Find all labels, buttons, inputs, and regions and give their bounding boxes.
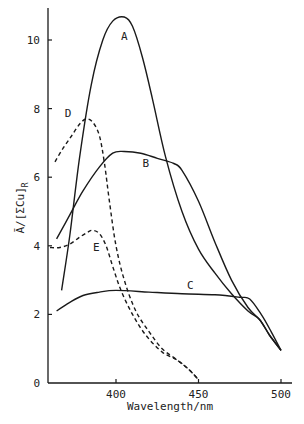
y-axis-title: Ā/[ΣCu]R: [14, 182, 30, 233]
y-tick-label: 6: [33, 171, 40, 184]
spectra-chart: 0246810 400450500 ABCDE Wavelength/nm Ā/…: [0, 0, 304, 424]
x-ticks: 400450500: [106, 379, 291, 401]
x-tick-label: 400: [106, 388, 126, 401]
curve-labels: ABCDE: [65, 30, 194, 292]
y-tick-label: 8: [33, 103, 40, 116]
curves: [50, 17, 281, 380]
y-tick-label: 10: [27, 34, 40, 47]
y-tick-label: 2: [33, 308, 40, 321]
y-tick-label: 0: [33, 377, 40, 390]
x-tick-label: 500: [271, 388, 291, 401]
y-axis-title-sub: R: [21, 182, 30, 187]
curve-label-d: D: [65, 107, 72, 120]
svg-text:Ā/[ΣCu]R: Ā/[ΣCu]R: [14, 182, 30, 233]
curve-b: [57, 151, 281, 350]
y-tick-label: 4: [33, 240, 40, 253]
y-axis-title-main: Ā/[ΣCu]: [14, 187, 27, 233]
curve-a: [62, 17, 281, 351]
axes: 0246810 400450500: [27, 8, 292, 401]
x-axis-title: Wavelength/nm: [127, 400, 213, 413]
curve-label-c: C: [187, 279, 194, 292]
curve-label-e: E: [93, 241, 100, 254]
curve-d: [55, 119, 199, 380]
curve-e: [50, 230, 199, 379]
curve-c: [57, 290, 281, 350]
curve-label-b: B: [142, 157, 149, 170]
curve-label-a: A: [121, 30, 128, 43]
